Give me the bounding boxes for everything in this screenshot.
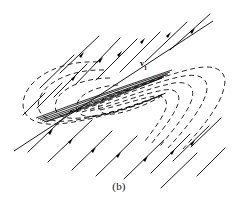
eigenvector-label: v1 <box>140 60 147 70</box>
eigenvector-label-subscript: 1 <box>144 65 147 71</box>
figure-caption: (b) <box>0 180 238 192</box>
figure-background <box>0 0 238 203</box>
figure-container: v1 (b) <box>0 0 238 203</box>
phase-portrait-diagram <box>0 0 238 203</box>
